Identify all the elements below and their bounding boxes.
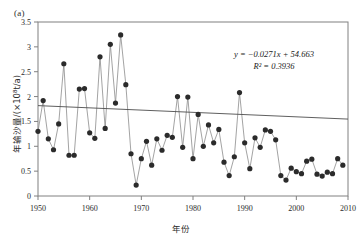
svg-text:1970: 1970 — [133, 204, 149, 213]
svg-text:3: 3 — [27, 43, 31, 52]
data-point — [268, 129, 273, 134]
data-point — [211, 140, 216, 145]
data-point — [128, 151, 133, 156]
data-point — [139, 156, 144, 161]
data-point — [77, 87, 82, 92]
svg-text:2010: 2010 — [340, 204, 356, 213]
data-point — [309, 157, 314, 162]
svg-text:0.5: 0.5 — [21, 167, 31, 176]
data-point — [159, 148, 164, 153]
svg-text:0: 0 — [27, 192, 31, 201]
data-point — [61, 61, 66, 66]
data-point — [252, 135, 257, 140]
data-point — [35, 129, 40, 134]
svg-text:1: 1 — [27, 142, 31, 151]
data-point — [283, 177, 288, 182]
x-axis-ticks: 1950196019701980199020002010 — [30, 196, 356, 213]
data-point — [258, 145, 263, 150]
data-point — [170, 135, 175, 140]
data-point — [216, 127, 221, 132]
trendline-equation: y = −0.0271x + 54.663 — [233, 49, 314, 59]
data-point — [144, 139, 149, 144]
svg-text:2000: 2000 — [288, 204, 304, 213]
data-point — [206, 122, 211, 127]
equation-annotation: y = −0.0271x + 54.663 R² = 0.3936 — [233, 49, 314, 71]
data-point — [185, 94, 190, 99]
data-point — [314, 172, 319, 177]
data-point — [340, 163, 345, 168]
data-point — [294, 169, 299, 174]
data-point — [304, 159, 309, 164]
data-point — [180, 145, 185, 150]
svg-text:3.5: 3.5 — [21, 18, 31, 27]
data-point — [149, 163, 154, 168]
data-point — [247, 166, 252, 171]
data-point — [190, 156, 195, 161]
data-point — [330, 171, 335, 176]
data-point — [196, 112, 201, 117]
data-point — [278, 173, 283, 178]
svg-text:2.5: 2.5 — [21, 68, 31, 77]
data-point — [289, 166, 294, 171]
data-point — [72, 153, 77, 158]
data-point — [108, 42, 113, 47]
svg-text:1.5: 1.5 — [21, 117, 31, 126]
data-point — [299, 171, 304, 176]
data-point — [165, 133, 170, 138]
data-point — [325, 170, 330, 175]
data-point — [273, 137, 278, 142]
data-point — [92, 136, 97, 141]
svg-text:1960: 1960 — [82, 204, 98, 213]
data-point — [242, 140, 247, 145]
data-point — [201, 144, 206, 149]
svg-text:2: 2 — [27, 93, 31, 102]
data-point — [320, 174, 325, 179]
data-point — [221, 160, 226, 165]
data-point — [46, 136, 51, 141]
data-point — [113, 100, 118, 105]
svg-text:1980: 1980 — [185, 204, 201, 213]
data-point — [237, 90, 242, 95]
r-squared-value: R² = 0.3936 — [252, 61, 295, 71]
data-point — [263, 127, 268, 132]
data-point — [154, 136, 159, 141]
data-point — [87, 130, 92, 135]
data-point — [123, 82, 128, 87]
data-point — [56, 121, 61, 126]
data-point — [175, 94, 180, 99]
trendline — [38, 106, 348, 119]
data-point — [97, 54, 102, 59]
data-point — [51, 147, 56, 152]
data-point — [41, 98, 46, 103]
figure-panel: (a) 年输沙量/(×10⁸t/a) 年份 195019601970198019… — [0, 0, 362, 240]
data-point — [82, 86, 87, 91]
data-point — [66, 153, 71, 158]
data-point — [134, 182, 139, 187]
chart-plot-area: 1950196019701980199020002010 00.511.522.… — [0, 0, 362, 240]
data-point — [103, 126, 108, 131]
data-point — [118, 32, 123, 37]
svg-text:1990: 1990 — [237, 204, 253, 213]
y-axis-ticks: 00.511.522.533.5 — [21, 18, 38, 201]
svg-text:1950: 1950 — [30, 204, 46, 213]
data-point — [227, 173, 232, 178]
data-point — [232, 154, 237, 159]
data-point — [335, 156, 340, 161]
